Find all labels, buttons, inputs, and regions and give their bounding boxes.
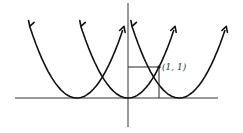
point-label: (1, 1) (162, 62, 187, 72)
arrowhead-shifted-right-left (131, 21, 137, 27)
marked-point (157, 65, 160, 68)
arrowhead-shifted-left-left (29, 21, 34, 27)
arrowhead-base-left (80, 21, 86, 27)
graph-canvas: (1, 1) (0, 0, 243, 133)
